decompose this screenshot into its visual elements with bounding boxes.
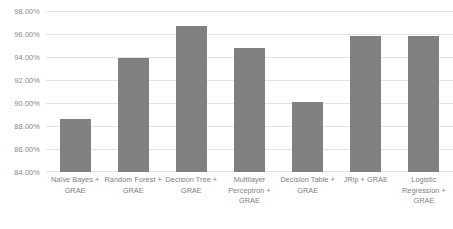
bar[interactable] [60, 119, 91, 172]
y-tick-label: 84.00% [14, 168, 40, 177]
y-tick-label: 88.00% [14, 122, 40, 131]
y-tick-label: 86.00% [14, 145, 40, 154]
y-axis: 98.00% 96.00% 94.00% 92.00% 90.00% 88.00… [0, 0, 44, 229]
bar-chart: 98.00% 96.00% 94.00% 92.00% 90.00% 88.00… [0, 0, 453, 229]
y-tick-label: 90.00% [14, 99, 40, 108]
category-label: Decision Tree + GRAE [162, 175, 220, 196]
category-labels: Naïve Bayes + GRAE Random Forest + GRAE … [46, 175, 453, 229]
bar[interactable] [350, 36, 381, 172]
y-tick-label: 92.00% [14, 76, 40, 85]
y-tick-label: 98.00% [14, 7, 40, 16]
y-tick-label: 94.00% [14, 53, 40, 62]
category-label: Logistic Regression + GRAE [395, 175, 453, 207]
bar[interactable] [176, 26, 207, 172]
category-label: Naïve Bayes + GRAE [46, 175, 104, 196]
bars-layer [46, 11, 453, 172]
bar[interactable] [292, 102, 323, 172]
bar[interactable] [118, 58, 149, 172]
category-label: Decision Table + GRAE [279, 175, 337, 196]
y-tick-label: 96.00% [14, 30, 40, 39]
category-label: Random Forest + GRAE [104, 175, 162, 196]
category-label: Multilayer Perceptron + GRAE [220, 175, 278, 207]
bar[interactable] [234, 48, 265, 172]
bar[interactable] [408, 36, 439, 172]
category-label: JRip + GRAE [337, 175, 395, 186]
